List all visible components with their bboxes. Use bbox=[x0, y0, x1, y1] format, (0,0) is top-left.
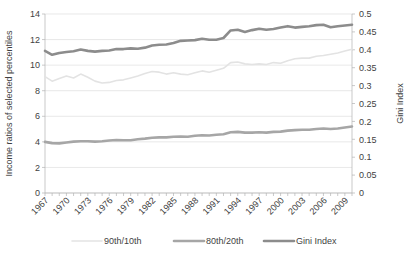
series-line-90th-10th bbox=[45, 49, 352, 83]
x-axis-tick-label: 1979 bbox=[115, 195, 136, 216]
y-axis-right-tick-label: 0.4 bbox=[359, 45, 372, 55]
chart-legend: 90th/10th80th/20thGini Index bbox=[72, 236, 337, 246]
x-axis-tick-label: 1973 bbox=[72, 195, 93, 216]
y-axis-right-tick-label: 0 bbox=[359, 188, 364, 198]
axes bbox=[45, 14, 352, 193]
x-axis-tick-label: 1967 bbox=[29, 195, 50, 216]
x-axis-tick-label: 1991 bbox=[201, 195, 222, 216]
x-axis-tickmarks bbox=[45, 193, 352, 196]
x-axis-tick-label: 1970 bbox=[51, 195, 72, 216]
x-axis-tick-label: 2003 bbox=[286, 195, 307, 216]
y-axis-left-tick-label: 2 bbox=[35, 163, 40, 173]
x-axis-tick-label: 1982 bbox=[136, 195, 157, 216]
y-axis-left-tick-label: 0 bbox=[35, 188, 40, 198]
data-series-group bbox=[45, 25, 352, 144]
y-axis-right-tick-label: 0.1 bbox=[359, 152, 372, 162]
y-axis-left-tick-label: 4 bbox=[35, 137, 40, 147]
y-axis-right-tick-label: 0.35 bbox=[359, 63, 377, 73]
x-axis-tick-label: 1997 bbox=[243, 195, 264, 216]
y-axis-right-tick-label: 0.2 bbox=[359, 117, 372, 127]
gridlines bbox=[45, 14, 352, 193]
y-axis-right-title: Gini Index bbox=[395, 83, 405, 124]
x-axis-tick-label: 1994 bbox=[222, 195, 243, 216]
chart-container: 02468101214 00.050.10.150.20.250.30.350.… bbox=[0, 0, 412, 261]
x-axis-tick-label: 1988 bbox=[179, 195, 200, 216]
x-axis-tick-label: 1985 bbox=[158, 195, 179, 216]
income-inequality-line-chart: 02468101214 00.050.10.150.20.250.30.350.… bbox=[0, 0, 412, 261]
y-axis-right-tick-label: 0.3 bbox=[359, 81, 372, 91]
y-axis-left-title: Income ratios of selected percentiles bbox=[4, 30, 14, 177]
legend-item-90th-10th: 90th/10th bbox=[72, 236, 142, 246]
y-axis-left-tick-label: 14 bbox=[30, 9, 40, 19]
legend-label-1: 80th/20th bbox=[206, 236, 244, 246]
y-axis-right-tick-label: 0.05 bbox=[359, 170, 377, 180]
y-axis-right-tick-labels: 00.050.10.150.20.250.30.350.40.450.5 bbox=[352, 9, 377, 198]
y-axis-left-tick-label: 10 bbox=[30, 60, 40, 70]
y-axis-right-tick-label: 0.45 bbox=[359, 27, 377, 37]
legend-label-0: 90th/10th bbox=[104, 236, 142, 246]
y-axis-right-tick-label: 0.25 bbox=[359, 99, 377, 109]
y-axis-right-tick-label: 0.15 bbox=[359, 135, 377, 145]
series-line-80th-20th bbox=[45, 127, 352, 144]
x-axis-tick-label: 1976 bbox=[93, 195, 114, 216]
y-axis-left-tick-labels: 02468101214 bbox=[30, 9, 45, 198]
legend-item-gini-index: Gini Index bbox=[264, 236, 337, 246]
legend-item-80th-20th: 80th/20th bbox=[174, 236, 244, 246]
x-axis-tick-label: 2000 bbox=[265, 195, 286, 216]
y-axis-left-tick-label: 8 bbox=[35, 86, 40, 96]
legend-label-2: Gini Index bbox=[296, 236, 337, 246]
x-axis-tick-labels: 1967197019731976197919821985198819911994… bbox=[29, 195, 350, 216]
y-axis-left-tick-label: 12 bbox=[30, 35, 40, 45]
x-axis-tick-label: 2009 bbox=[329, 195, 350, 216]
x-axis-tick-label: 2006 bbox=[308, 195, 329, 216]
y-axis-left-tick-label: 6 bbox=[35, 111, 40, 121]
y-axis-right-tick-label: 0.5 bbox=[359, 9, 372, 19]
